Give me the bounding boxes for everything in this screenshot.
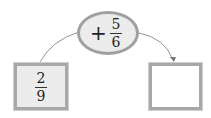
start-value-box: 2 9: [14, 63, 68, 110]
result-box[interactable]: [149, 63, 202, 110]
operation-numerator: 5: [112, 17, 121, 32]
operation-denominator: 6: [112, 35, 121, 50]
arc-right: [139, 33, 173, 60]
operator: +: [90, 23, 107, 43]
operation-fraction: 5 6: [110, 17, 122, 50]
arc-left: [40, 32, 79, 62]
start-denominator: 9: [37, 89, 46, 104]
start-fraction: 2 9: [17, 71, 65, 104]
operation-oval: + 5 6: [77, 11, 139, 55]
start-numerator: 2: [37, 71, 46, 86]
arrowhead-icon: [170, 57, 176, 62]
